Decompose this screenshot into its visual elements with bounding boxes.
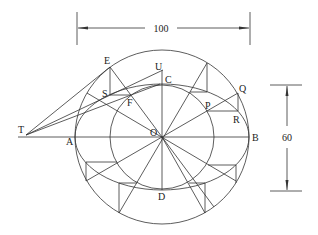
label-u: U [155, 61, 163, 72]
dim-60-label: 60 [282, 132, 292, 143]
arrow-up-icon [286, 86, 289, 96]
dim-100-label: 100 [154, 23, 169, 34]
label-d: D [158, 191, 165, 202]
label-f: F [127, 97, 133, 108]
label-a: A [66, 136, 74, 147]
label-b: B [252, 132, 259, 143]
label-c: C [165, 74, 172, 85]
arrow-left-icon [78, 27, 88, 30]
label-p: P [205, 100, 211, 111]
label-q: Q [239, 83, 247, 94]
arrow-down-icon [286, 180, 289, 190]
label-e: E [104, 55, 110, 66]
label-r: R [233, 114, 240, 125]
tangent-line-ts [26, 84, 160, 135]
radial-line-lower-right [162, 137, 205, 213]
ellipse-construction-diagram: 100 60 E U C S F Q P R T A O B D [0, 0, 318, 235]
label-t: T [18, 124, 24, 135]
label-s: S [102, 88, 108, 99]
arrow-right-icon [239, 27, 249, 30]
label-o: O [150, 127, 157, 138]
